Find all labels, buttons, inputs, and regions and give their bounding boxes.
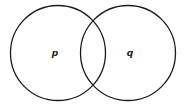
venn-diagram: p q: [0, 0, 185, 107]
set-q-label: q: [127, 48, 134, 58]
venn-canvas: p q: [0, 0, 185, 107]
set-p-label: p: [51, 48, 59, 58]
